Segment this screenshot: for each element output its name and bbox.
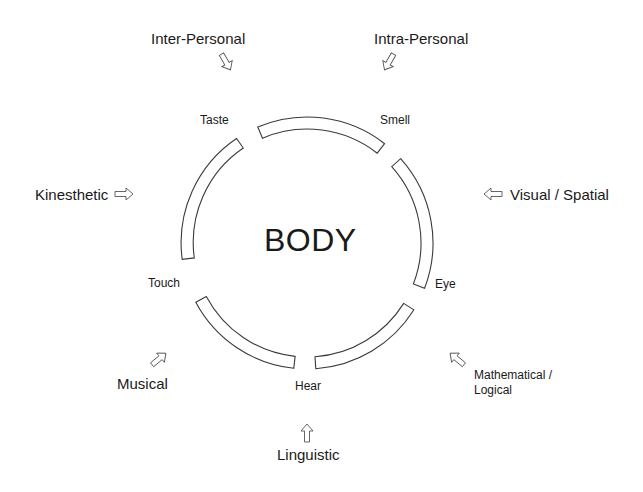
arrow-inter-personal-icon bbox=[216, 51, 235, 73]
sense-label-hear: Hear bbox=[295, 380, 321, 392]
intelligence-label-visual-spatial: Visual / Spatial bbox=[510, 187, 609, 202]
intelligence-label-musical: Musical bbox=[117, 376, 168, 391]
intelligence-label-kinesthetic: Kinesthetic bbox=[35, 187, 108, 202]
arc-taste-smell bbox=[258, 117, 385, 153]
sense-label-taste: Taste bbox=[200, 114, 229, 126]
sense-label-eye: Eye bbox=[435, 278, 456, 290]
intelligence-label-linguistic: Linguistic bbox=[277, 447, 340, 462]
intelligence-label-logical: Logical bbox=[474, 384, 512, 396]
intelligence-label-inter-personal: Inter-Personal bbox=[151, 31, 245, 46]
arc-hear-touch bbox=[196, 297, 295, 369]
arrow-kinesthetic-icon bbox=[115, 188, 133, 200]
center-title: BODY bbox=[264, 224, 357, 256]
arrow-musical-icon bbox=[148, 349, 170, 370]
intelligence-label-mathematical: Mathematical / bbox=[474, 369, 552, 381]
arc-eye-hear bbox=[315, 303, 414, 368]
arrow-linguistic-icon bbox=[301, 424, 313, 442]
arc-smell-eye bbox=[392, 159, 433, 289]
arrow-intra-personal-icon bbox=[379, 51, 398, 73]
sense-label-smell: Smell bbox=[380, 114, 410, 126]
arrow-mathematical-logical-icon bbox=[446, 349, 468, 370]
intelligence-label-intra-personal: Intra-Personal bbox=[374, 31, 468, 46]
arrow-visual-spatial-icon bbox=[484, 188, 502, 200]
arc-touch-taste bbox=[181, 139, 243, 260]
sense-label-touch: Touch bbox=[148, 277, 180, 289]
